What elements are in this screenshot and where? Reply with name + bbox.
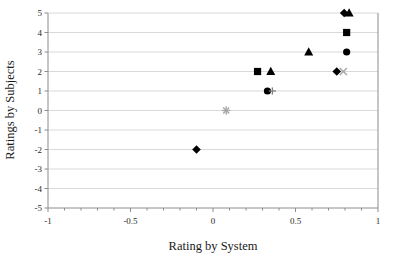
y-tick-label: 0 <box>38 106 43 116</box>
x-axis-title: Rating by System <box>169 239 258 253</box>
data-point-diamond <box>192 145 201 154</box>
x-tick-label: -1 <box>44 216 52 226</box>
x-axis-ticks <box>48 208 378 212</box>
x-tick-label: 1 <box>376 216 381 226</box>
data-point-triangle <box>304 47 313 55</box>
scatter-chart: -1-0.500.51 -5-4-3-2-1012345 Rating by S… <box>0 0 394 260</box>
y-axis-tick-labels: -5-4-3-2-1012345 <box>35 8 43 213</box>
x-tick-label: 0 <box>211 216 216 226</box>
y-tick-label: 4 <box>38 28 43 38</box>
data-point-circle <box>343 48 350 55</box>
data-point-markers <box>192 8 353 154</box>
y-axis-title: Ratings by Subjects <box>3 60 17 159</box>
data-point-asterisk <box>222 106 230 114</box>
chart-canvas: -1-0.500.51 -5-4-3-2-1012345 Rating by S… <box>0 0 394 260</box>
data-point-square <box>343 29 350 36</box>
y-tick-label: -2 <box>35 145 43 155</box>
gridlines <box>48 13 378 189</box>
y-tick-label: 5 <box>38 8 43 18</box>
x-tick-label: -0.5 <box>123 216 138 226</box>
y-tick-label: -4 <box>35 184 43 194</box>
y-tick-label: -3 <box>35 164 43 174</box>
y-tick-label: 1 <box>38 86 43 96</box>
x-axis-tick-labels: -1-0.500.51 <box>44 216 380 226</box>
data-point-triangle <box>266 67 275 75</box>
y-tick-label: -5 <box>35 203 43 213</box>
data-point-square <box>254 68 261 75</box>
x-tick-label: 0.5 <box>290 216 302 226</box>
y-tick-label: 2 <box>38 67 43 77</box>
y-axis-ticks <box>45 13 49 208</box>
y-tick-label: 3 <box>38 47 43 57</box>
y-tick-label: -1 <box>35 125 43 135</box>
